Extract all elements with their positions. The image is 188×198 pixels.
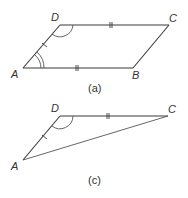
- vertex-label-d: D: [51, 11, 59, 23]
- caption-a: (a): [88, 82, 101, 94]
- vertex-label-a: A: [10, 160, 18, 172]
- edge-ca: [23, 116, 168, 160]
- angle-mark-a: [35, 52, 44, 68]
- vertex-label-d: D: [51, 102, 59, 114]
- caption-c: (c): [88, 174, 101, 186]
- vertex-label-a: A: [10, 68, 18, 80]
- edge-da: [23, 25, 60, 68]
- vertex-label-c: C: [168, 103, 176, 115]
- diagram: A B C D (a) A C D (c): [0, 0, 188, 198]
- figure-a: A B C D (a): [10, 11, 177, 94]
- figure-c: A C D (c): [10, 102, 176, 186]
- edge-bc: [133, 25, 169, 68]
- vertex-label-c: C: [169, 12, 177, 24]
- edge-ad: [23, 116, 60, 160]
- vertex-label-b: B: [132, 69, 139, 81]
